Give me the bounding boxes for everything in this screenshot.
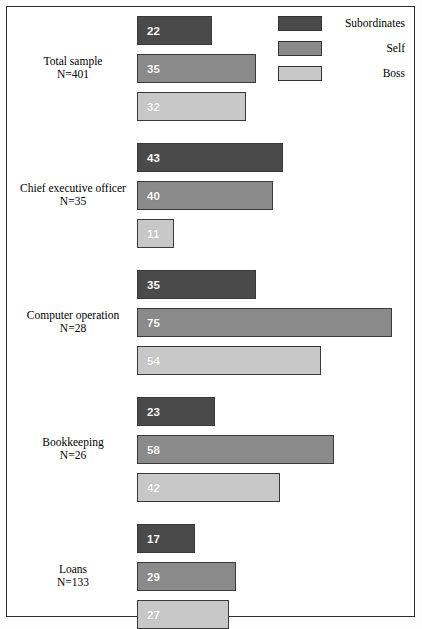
bar-boss: 32: [137, 92, 246, 121]
group-label-name: Loans: [14, 563, 132, 577]
bar-row: 40: [137, 181, 273, 210]
bar-subordinates: 17: [137, 524, 195, 553]
group-label-sample-size: N=26: [14, 449, 132, 463]
bar-value-label: 40: [138, 190, 160, 202]
group-label-name: Computer operation: [14, 309, 132, 323]
group-label-sample-size: N=133: [14, 576, 132, 590]
bar-value-label: 43: [138, 152, 160, 164]
bar-value-label: 32: [138, 101, 160, 113]
bar-value-label: 29: [138, 571, 160, 583]
bar-row: 17: [137, 524, 195, 553]
bar-value-label: 35: [138, 63, 160, 75]
bar-group: LoansN=133172927: [0, 524, 422, 629]
group-label-sample-size: N=28: [14, 322, 132, 336]
bar-boss: 11: [137, 219, 174, 248]
bar-row: 29: [137, 562, 236, 591]
group-label-name: Bookkeeping: [14, 436, 132, 450]
bar-row: 22: [137, 16, 212, 45]
bar-boss: 54: [137, 346, 321, 375]
bar-row: 27: [137, 600, 229, 629]
bar-value-label: 23: [138, 406, 160, 418]
bar-value-label: 75: [138, 317, 160, 329]
group-label: Total sampleN=401: [14, 55, 132, 82]
bar-self: 40: [137, 181, 273, 210]
bar-self: 35: [137, 54, 256, 83]
bar-subordinates: 23: [137, 397, 215, 426]
bar-group: BookkeepingN=26235842: [0, 397, 422, 502]
bar-value-label: 54: [138, 355, 160, 367]
bar-value-label: 11: [138, 228, 160, 240]
bar-row: 42: [137, 473, 280, 502]
bar-row: 43: [137, 143, 283, 172]
bar-group: Computer operationN=28357554: [0, 270, 422, 375]
group-label-sample-size: N=401: [14, 68, 132, 82]
bar-row: 54: [137, 346, 321, 375]
bar-value-label: 27: [138, 609, 160, 621]
bar-value-label: 22: [138, 25, 160, 37]
group-label: BookkeepingN=26: [14, 436, 132, 463]
bar-group: Chief executive officerN=35434011: [0, 143, 422, 248]
bar-boss: 42: [137, 473, 280, 502]
bar-subordinates: 35: [137, 270, 256, 299]
bar-self: 58: [137, 435, 334, 464]
bar-row: 32: [137, 92, 246, 121]
bar-value-label: 17: [138, 533, 160, 545]
bar-subordinates: 22: [137, 16, 212, 45]
bar-row: 58: [137, 435, 334, 464]
group-label-sample-size: N=35: [14, 195, 132, 209]
bar-value-label: 35: [138, 279, 160, 291]
group-label: LoansN=133: [14, 563, 132, 590]
group-label: Computer operationN=28: [14, 309, 132, 336]
bar-boss: 27: [137, 600, 229, 629]
bar-subordinates: 43: [137, 143, 283, 172]
bar-row: 35: [137, 270, 256, 299]
bar-group: Total sampleN=401223532: [0, 16, 422, 121]
bar-row: 75: [137, 308, 392, 337]
bar-self: 29: [137, 562, 236, 591]
group-label-name: Chief executive officer: [14, 182, 132, 196]
bar-value-label: 58: [138, 444, 160, 456]
bar-row: 11: [137, 219, 174, 248]
bar-self: 75: [137, 308, 392, 337]
bar-value-label: 42: [138, 482, 160, 494]
group-label: Chief executive officerN=35: [14, 182, 132, 209]
group-label-name: Total sample: [14, 55, 132, 69]
bar-row: 35: [137, 54, 256, 83]
bar-row: 23: [137, 397, 215, 426]
